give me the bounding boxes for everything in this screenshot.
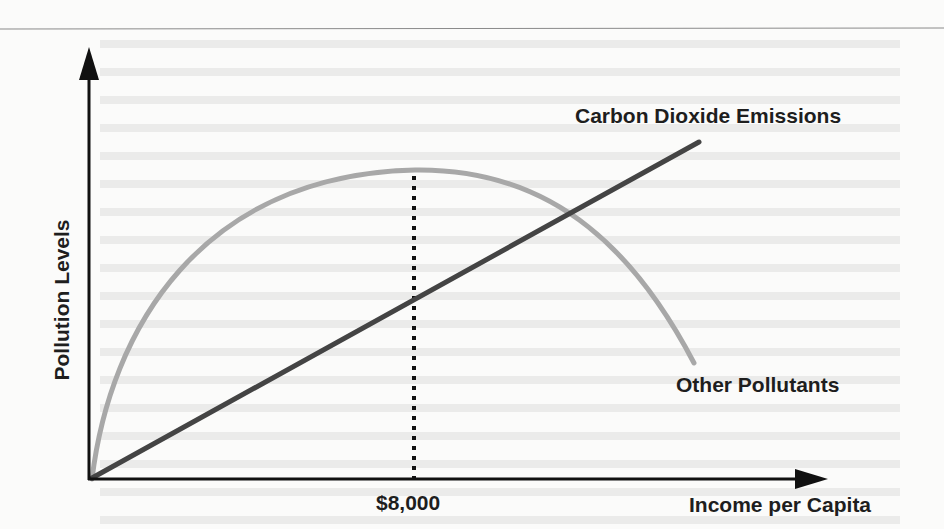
other-pollutants-series-label: Other Pollutants xyxy=(676,373,839,397)
kuznets-curve-diagram xyxy=(0,0,944,529)
y-axis-title: Pollution Levels xyxy=(50,219,74,380)
x-axis-arrowhead xyxy=(795,469,828,489)
x-axis-title: Income per Capita xyxy=(689,493,871,517)
top-rule xyxy=(0,28,944,29)
co2-series-label: Carbon Dioxide Emissions xyxy=(575,104,841,128)
x-tick-8000-label: $8,000 xyxy=(376,491,440,515)
y-axis-arrowhead xyxy=(79,47,99,80)
co2-emissions-line xyxy=(92,142,699,478)
